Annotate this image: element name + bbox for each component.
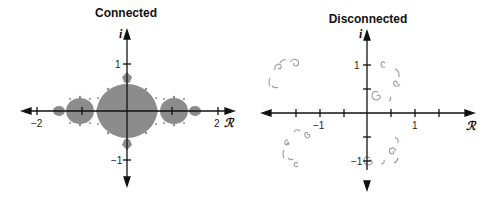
- x-tick-label-neg1: −1: [313, 120, 325, 131]
- x-tick-label-2: 2: [214, 118, 220, 129]
- imaginary-axis-label: i: [119, 27, 123, 41]
- disconnected-julia-plot: −1 1 1 −1 ℛ i: [250, 0, 497, 200]
- x-tick-label-1: 1: [412, 120, 418, 131]
- y-tick-label-1: 1: [354, 60, 360, 71]
- real-axis-label: ℛ: [224, 116, 235, 130]
- disconnected-julia-panel: Disconnected: [250, 0, 497, 200]
- connected-julia-plot: −2 2 1 −1 ℛ i: [0, 0, 250, 200]
- axes: [262, 31, 474, 190]
- imaginary-axis-label: i: [359, 27, 363, 41]
- connected-julia-panel: Connected: [0, 0, 250, 200]
- x-tick-label-neg2: −2: [31, 118, 43, 129]
- y-tick-label-1: 1: [115, 59, 121, 70]
- real-axis-label: ℛ: [466, 119, 477, 133]
- y-tick-label-neg1: −1: [111, 155, 123, 166]
- y-tick-label-neg1: −1: [351, 156, 363, 167]
